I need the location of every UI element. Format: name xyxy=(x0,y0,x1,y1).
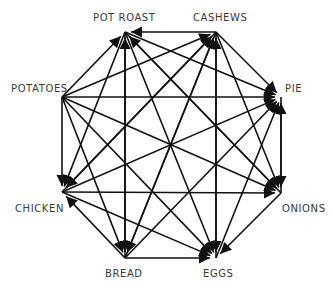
node-label-potatoes: POTATOES xyxy=(11,83,68,94)
node-label-pot-roast: POT ROAST xyxy=(93,12,156,23)
edge-pr-to-eg xyxy=(125,32,214,252)
edge-ch-to-on xyxy=(62,192,275,193)
edge-ca-to-br xyxy=(127,32,216,252)
food-graph-diagram xyxy=(0,0,333,294)
edge-pr-to-pi xyxy=(125,32,275,95)
node-label-onions: ONIONS xyxy=(282,203,326,214)
node-label-bread: BREAD xyxy=(105,268,143,279)
node-label-cashews: CASHEWS xyxy=(193,12,247,23)
graph-edges xyxy=(62,32,281,258)
node-label-chicken: CHICKEN xyxy=(15,203,64,214)
edge-pr-to-on xyxy=(125,32,277,189)
edge-ca-to-pi xyxy=(216,32,277,93)
edge-ca-to-ch xyxy=(66,32,216,188)
node-label-eggs: EGGS xyxy=(203,268,234,279)
node-label-pie: PIE xyxy=(285,83,302,94)
